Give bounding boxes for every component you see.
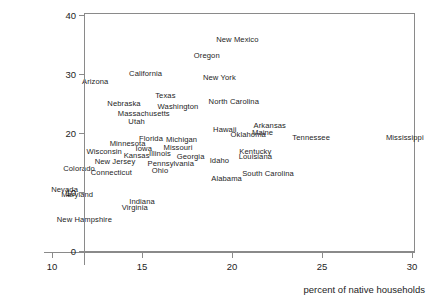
x-axis-tick-label: 30 xyxy=(407,261,418,272)
y-axis-tick xyxy=(79,74,84,75)
x-axis-tick xyxy=(412,253,413,258)
plot-frame xyxy=(84,13,415,252)
y-axis-tick-label: 10 xyxy=(46,187,76,198)
scatter-plot-figure: New MexicoOregonCaliforniaNew YorkArizon… xyxy=(0,0,433,301)
y-axis-tick-label: 0 xyxy=(46,246,76,257)
x-axis-title: percent of native households xyxy=(304,284,425,295)
x-axis-line xyxy=(44,252,415,253)
y-axis-tick xyxy=(79,133,84,134)
y-axis-tick xyxy=(79,192,84,193)
x-axis-tick-label: 15 xyxy=(137,261,148,272)
y-axis-tick-label: 30 xyxy=(46,69,76,80)
x-axis-tick-label: 10 xyxy=(47,261,58,272)
y-axis-line xyxy=(84,13,85,265)
x-axis-tick xyxy=(142,253,143,258)
x-axis-tick-label: 20 xyxy=(227,261,238,272)
y-axis-tick xyxy=(79,15,84,16)
y-axis-tick-label: 20 xyxy=(46,128,76,139)
x-axis-tick xyxy=(322,253,323,258)
x-axis-tick-label: 25 xyxy=(317,261,328,272)
x-axis-tick xyxy=(232,253,233,258)
y-axis-tick xyxy=(79,251,84,252)
y-axis-tick-label: 40 xyxy=(46,10,76,21)
